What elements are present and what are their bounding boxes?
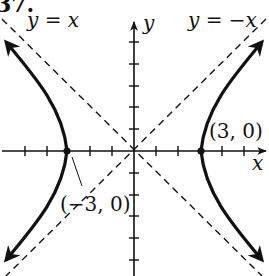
hyperbola-graph: 37. y = x y = −x y x (3, bbox=[0, 0, 269, 276]
vertex-right-point bbox=[197, 147, 204, 154]
vertex-right-label: (3, 0) bbox=[209, 119, 263, 143]
vertex-left-leader bbox=[72, 157, 82, 186]
x-axis-label: x bbox=[252, 151, 263, 175]
asymptote-label-y-equals-neg-x: y = −x bbox=[187, 8, 257, 32]
asymptote-label-y-equals-x: y = x bbox=[26, 8, 79, 32]
y-axis-label: y bbox=[142, 11, 155, 35]
vertex-left-label: (−3, 0) bbox=[60, 192, 131, 216]
vertex-left-point bbox=[63, 147, 70, 154]
